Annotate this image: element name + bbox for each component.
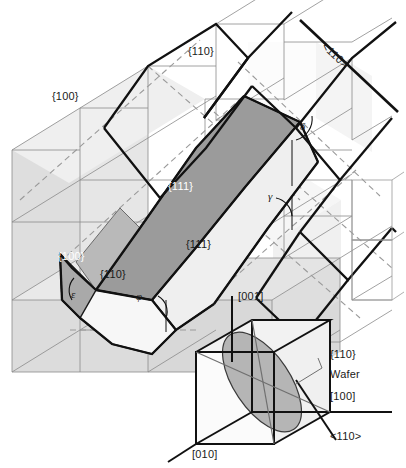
label-plane-100-top-left: {100} — [52, 90, 79, 102]
label-angle-delta: δ — [300, 120, 305, 132]
label-plane-111-dark: {111} — [168, 180, 193, 192]
label-wafer-word: Wafer — [330, 368, 360, 380]
right-edge-grid — [352, 172, 404, 300]
label-axis-001: [001] — [238, 290, 263, 302]
label-plane-111-light: {111} — [186, 238, 211, 250]
label-plane-110-top: {110} — [188, 45, 214, 57]
crystal-diagram-figure: {100} {110} <110> {111} {111} {100} {110… — [0, 0, 406, 468]
label-angle-phi: φ — [136, 290, 142, 302]
label-angle-epsilon: ε — [71, 288, 76, 300]
label-axis-010: [010] — [192, 448, 217, 460]
label-axis-100: [100] — [330, 390, 355, 402]
label-wafer-plane: {110} — [330, 348, 356, 360]
label-direction-110-inset: <110> — [330, 430, 361, 442]
label-plane-110-lower: {110} — [100, 268, 126, 280]
label-angle-gamma: γ — [268, 190, 273, 202]
label-plane-100-lower: {100} — [58, 250, 85, 262]
